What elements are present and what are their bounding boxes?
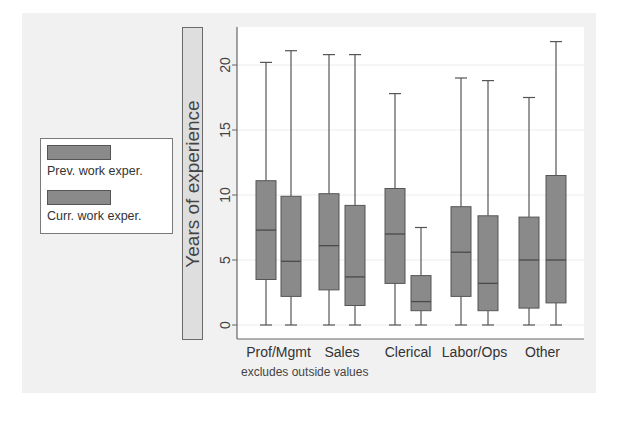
iqr-box	[345, 205, 365, 305]
x-category-label: Other	[525, 344, 560, 360]
x-category-label: Clerical	[385, 344, 432, 360]
y-tick-label: 20	[217, 57, 233, 73]
iqr-box	[519, 217, 539, 308]
iqr-box	[319, 194, 339, 290]
iqr-box	[385, 189, 405, 284]
x-category-label: Sales	[324, 344, 359, 360]
y-tick-label: 0	[217, 321, 233, 329]
x-category-label: Labor/Ops	[442, 344, 507, 360]
iqr-box	[478, 216, 498, 311]
iqr-box	[281, 196, 301, 296]
iqr-box	[411, 276, 431, 311]
x-category-label: Prof/Mgmt	[246, 344, 311, 360]
y-tick-label: 10	[217, 187, 233, 203]
y-tick-label: 5	[217, 256, 233, 264]
y-tick-label: 15	[217, 122, 233, 138]
iqr-box	[546, 176, 566, 303]
iqr-box	[451, 207, 471, 297]
footnote: excludes outside values	[241, 365, 368, 379]
